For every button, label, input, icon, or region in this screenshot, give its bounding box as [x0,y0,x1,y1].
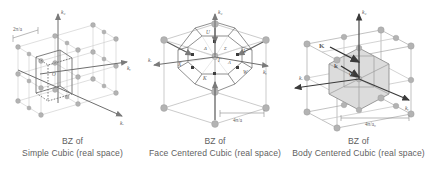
fcc-axis-z-label: k₂ [218,9,222,15]
caption-line1: BZ of [0,136,145,148]
fcc-point-W: W [243,69,248,75]
fcc-point-X: X [177,61,182,67]
fcc-point-L: L [242,48,246,54]
caption-line2: Body Centered Cubic (real space) [285,148,432,160]
fcc-axes [154,14,268,66]
fcc-axis-y [215,57,268,66]
panel-body-centered-cubic: 4π/a₀ k₂ kᵧ kₓ K k O BZ of Body Centered… [285,0,432,176]
sc-axis-y-label: kᵧ [127,65,131,71]
bcc-origin-label: O [349,71,354,77]
caption-line2: Simple Cubic (real space) [0,148,145,160]
bcc-diagram: 4π/a₀ k₂ kᵧ kₓ K k O [285,0,432,132]
fcc-point-K: K [202,75,207,81]
caption-simple-cubic: BZ of Simple Cubic (real space) [0,136,145,159]
sc-axis-x [18,70,122,116]
fcc-axis-x-label: kₓ [148,57,152,63]
fcc-axis-y-label: kᵧ [263,69,267,75]
fcc-line-delta: Δ [203,46,207,51]
sc-origin-label: O [52,71,56,77]
fcc-line-lambda: Λ [227,60,231,65]
fcc-dimension-label: 4π/a [233,117,243,123]
panel-face-centered-cubic: 4π/a k₂ kᵧ kₓ Γ L X K W U Δ Σ Λ BZ of Fa… [140,0,290,176]
caption-line2: Face Centered Cubic (real space) [140,148,290,160]
sc-dimension-label: 2π/a [13,26,23,32]
brillouin-zone-figure: 2π/a k₂ kᵧ kₓ O BZ of Simple Cubic (real… [0,0,432,176]
sc-axis-z-label: k₂ [61,9,65,15]
caption-face-centered-cubic: BZ of Face Centered Cubic (real space) [140,136,290,159]
simple-cubic-diagram: 2π/a k₂ kᵧ kₓ O [0,0,145,132]
bcc-vector-K-label: K [319,42,325,50]
bcc-vector-k-label: k [334,62,338,70]
caption-line1: BZ of [140,136,290,148]
fcc-line-sigma: Σ [223,46,227,51]
bcc-dimension-label: 4π/a₀ [365,121,376,127]
panel-simple-cubic: 2π/a k₂ kᵧ kₓ O BZ of Simple Cubic (real… [0,0,145,176]
sc-axis-x-label: kₓ [120,120,124,126]
bcc-axis-z-label: k₂ [362,9,366,15]
fcc-diagram: 4π/a k₂ kᵧ kₓ Γ L X K W U Δ Σ Λ [140,0,290,132]
bcc-axis-x-label: kₓ [299,75,303,81]
bcc-axis-y-label: kᵧ [405,105,409,111]
caption-body-centered-cubic: BZ of Body Centered Cubic (real space) [285,136,432,159]
caption-line1: BZ of [285,136,432,148]
fcc-point-U: U [206,29,211,35]
